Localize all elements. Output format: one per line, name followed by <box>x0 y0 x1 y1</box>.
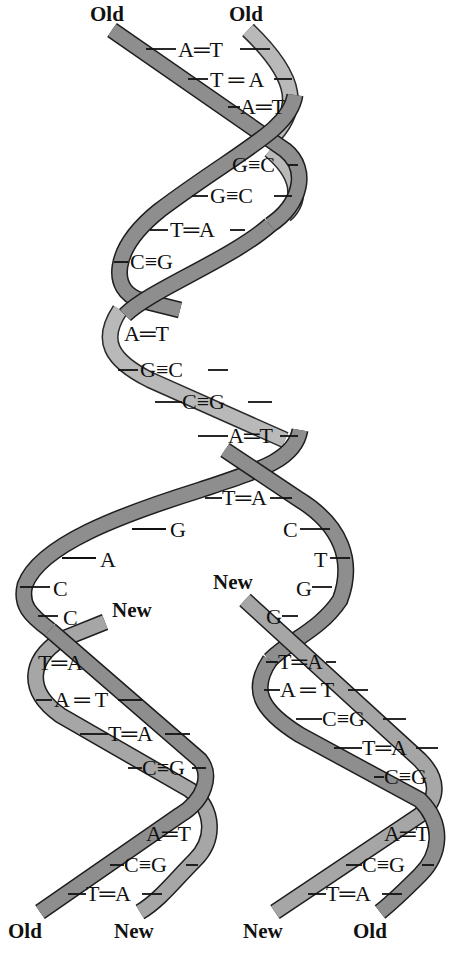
label-bottom-right-old: Old <box>353 919 387 944</box>
base-pair: G≡C <box>210 183 253 208</box>
base-pair: T═A <box>278 649 323 674</box>
base-pair: A═T <box>228 423 273 448</box>
base: G <box>266 604 282 629</box>
base: C <box>53 576 68 601</box>
base: G <box>296 576 312 601</box>
label-bottom-left-old: Old <box>8 919 42 944</box>
base-pair: A ═ T <box>54 687 109 712</box>
base-pair: A═T <box>178 37 223 62</box>
base-pair: C≡G <box>182 389 225 414</box>
base-pair: T═A <box>222 485 267 510</box>
label-top-right-old: Old <box>229 2 263 27</box>
base: T <box>314 547 328 572</box>
base-pair: C≡G <box>322 706 365 731</box>
label-left-new-strand: New <box>112 598 152 623</box>
base-pair: C≡G <box>384 764 427 789</box>
base-pair: C≡G <box>124 852 167 877</box>
base-pair: C≡G <box>142 755 185 780</box>
base: A <box>100 547 116 572</box>
base-pair: G≡C <box>232 152 275 177</box>
base-pair: T═A <box>86 881 131 906</box>
base: C <box>63 605 78 630</box>
label-right-new-strand: New <box>213 570 253 595</box>
label-top-left-old: Old <box>90 2 124 27</box>
base-pair: A═T <box>146 821 191 846</box>
base-pair: C≡G <box>362 852 405 877</box>
base-pair: A═T <box>124 321 169 346</box>
base-pair: T═A <box>108 721 153 746</box>
label-bottom-left-new: New <box>114 919 154 944</box>
parent-old-strand-2 <box>120 95 295 310</box>
base-pair: A═T <box>240 94 285 119</box>
dna-replication-diagram: A═T T ═ A A═T G≡C G≡C T═A C≡G A═T G≡C C≡… <box>0 0 459 963</box>
label-bottom-right-new: New <box>243 919 283 944</box>
base: C <box>283 517 298 542</box>
base-pair: T═A <box>362 735 407 760</box>
base-pair: G≡C <box>140 357 183 382</box>
base-pair: T ═ A <box>210 67 264 92</box>
base-pair: A═T <box>384 821 429 846</box>
base-pair: A ═ T <box>280 677 335 702</box>
base-pair: T═A <box>38 650 83 675</box>
base: G <box>170 517 186 542</box>
base-pair: T═A <box>170 217 215 242</box>
base-pair: T═A <box>326 881 371 906</box>
base-pair: C≡G <box>130 249 173 274</box>
